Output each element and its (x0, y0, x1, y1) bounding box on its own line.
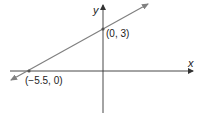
y-intercept-label: (0, 3) (106, 29, 129, 39)
y-intercept-point (101, 27, 104, 30)
x-intercept-point (27, 69, 30, 72)
graph-line (11, 4, 148, 80)
x-axis-label: x (188, 58, 194, 69)
coordinate-graph (0, 0, 203, 119)
y-axis-label: y (93, 5, 99, 16)
x-intercept-label: (−5.5, 0) (25, 76, 63, 86)
